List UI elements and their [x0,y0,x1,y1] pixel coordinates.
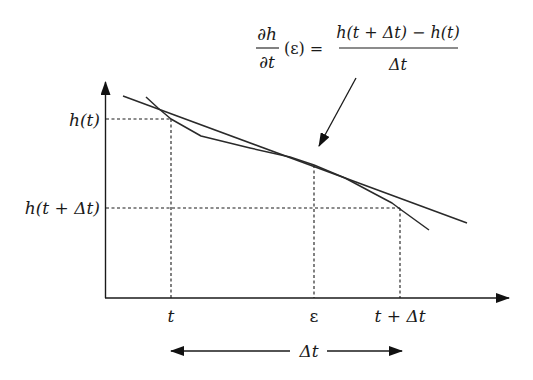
formula-lhs-numerator: ∂h [257,24,277,44]
mean-value-diagram: ∂h ∂t (ε) = h(t + Δt) − h(t) Δt h(t) h(t… [0,0,533,380]
y-label-h-t: h(t) [69,110,100,130]
y-label-h-t-plus-dt: h(t + Δt) [25,198,100,218]
x-label-t: t [168,306,175,326]
interval-label: Δt [298,341,318,361]
secant-line [123,96,467,223]
guide-lines [106,119,400,298]
x-label-t-plus-dt: t + Δt [375,306,426,326]
derivative-formula: ∂h ∂t (ε) = h(t + Δt) − h(t) Δt [256,23,460,74]
pointer-arrow-icon [319,78,356,146]
x-label-epsilon: ε [310,306,319,326]
formula-rhs-denominator: Δt [388,55,408,74]
formula-rhs-numerator: h(t + Δt) − h(t) [336,23,460,42]
formula-lhs-denominator: ∂t [259,52,275,72]
function-curve [146,97,429,230]
formula-lhs-argument: (ε) = [284,39,323,58]
delta-t-interval: Δt [171,341,402,361]
